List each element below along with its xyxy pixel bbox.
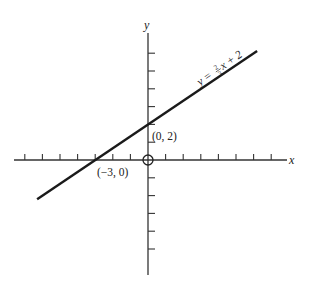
equation-label: y = 2 3 x + 2: [193, 48, 246, 91]
y-axis-ticks: [148, 53, 155, 249]
label-y-intercept: (0, 2): [152, 130, 177, 143]
label-x-intercept: (−3, 0): [97, 166, 129, 179]
y-axis-label: y: [143, 18, 150, 32]
graph: y x (0, 2) (−3, 0) y = 2 3 x + 2: [0, 0, 309, 291]
line-y-equals-two-thirds-x-plus-two: [37, 51, 257, 199]
x-axis-label: x: [288, 153, 295, 167]
